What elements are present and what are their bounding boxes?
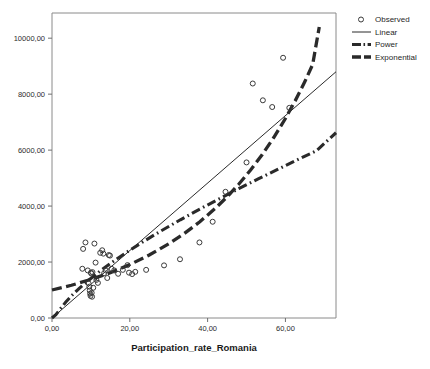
observed-point: [116, 271, 121, 276]
y-tick-label: 8000,00: [18, 90, 45, 99]
observed-point: [81, 246, 86, 251]
observed-point: [144, 267, 149, 272]
observed-point: [83, 240, 88, 245]
observed-point: [80, 266, 85, 271]
legend-label-exponential: Exponential: [375, 53, 417, 62]
y-tick-label: 2000,00: [18, 258, 45, 267]
y-axis-ticks: 0,002000,004000,006000,008000,0010000,00: [14, 34, 52, 323]
chart-legend: ObservedLinearPowerExponential: [352, 15, 417, 62]
observed-point: [127, 270, 132, 275]
x-axis-ticks: 0,0020,0040,0060,00: [45, 318, 295, 333]
x-tick-label: 20,00: [120, 324, 139, 333]
legend-marker-observed: [359, 17, 364, 22]
fitted-curves: [52, 27, 336, 318]
observed-point: [197, 240, 202, 245]
y-tick-label: 0,00: [30, 314, 45, 323]
observed-point: [93, 260, 98, 265]
regression-scatter-figure: 0,0020,0040,0060,00 0,002000,004000,0060…: [0, 0, 430, 369]
observed-point: [260, 98, 265, 103]
y-tick-label: 4000,00: [18, 202, 45, 211]
legend-label-observed: Observed: [375, 15, 410, 24]
legend-label-linear: Linear: [375, 28, 398, 37]
observed-point: [162, 263, 167, 268]
x-tick-label: 60,00: [276, 324, 295, 333]
x-tick-label: 40,00: [198, 324, 217, 333]
observed-point: [223, 189, 228, 194]
observed-point: [101, 251, 106, 256]
x-tick-label: 0,00: [45, 324, 60, 333]
observed-point: [177, 257, 182, 262]
y-tick-label: 10000,00: [14, 34, 45, 43]
observed-point: [250, 81, 255, 86]
observed-point: [92, 241, 97, 246]
observed-point: [105, 275, 110, 280]
observed-point: [210, 219, 215, 224]
chart-canvas: 0,0020,0040,0060,00 0,002000,004000,0060…: [0, 0, 430, 369]
observed-point: [270, 105, 275, 110]
observed-point: [281, 55, 286, 60]
observed-point: [244, 160, 249, 165]
exponential-fit-curve: [52, 27, 319, 290]
y-tick-label: 6000,00: [18, 146, 45, 155]
legend-label-power: Power: [375, 40, 398, 49]
x-axis-title: Participation_rate_Romania: [131, 342, 257, 353]
